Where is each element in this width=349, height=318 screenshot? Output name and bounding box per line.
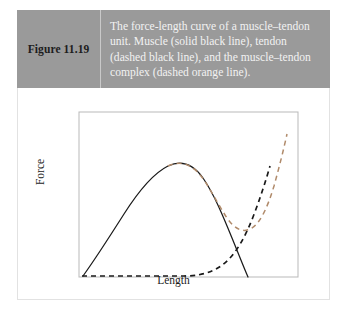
y-axis-label: Force: [34, 142, 46, 202]
figure-plot-region: Force Length: [17, 88, 330, 300]
force-length-chart: Force Length: [18, 88, 329, 298]
figure-card: Figure 11.19 The force-length curve of a…: [17, 10, 330, 300]
chart-canvas: [18, 88, 329, 298]
x-axis-label: Length: [18, 274, 329, 286]
plot-frame: [79, 112, 298, 277]
figure-caption-text: The force-length curve of a muscle–tendo…: [110, 19, 322, 80]
figure-number-label: Figure 11.19: [28, 43, 90, 55]
figure-caption-cell: The force-length curve of a muscle–tendo…: [101, 10, 330, 88]
figure-number-cell: Figure 11.19: [17, 10, 101, 88]
figure-caption-band: Figure 11.19 The force-length curve of a…: [17, 10, 330, 88]
